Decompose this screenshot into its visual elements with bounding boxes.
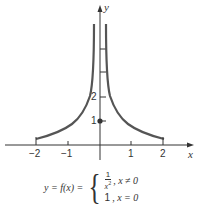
y-tick-label: 2 <box>91 92 97 102</box>
y-axis-arrow-icon <box>98 5 103 12</box>
y-axis-label: y <box>104 2 109 13</box>
case-zero: 1 , x = 0 <box>105 192 139 203</box>
left-brace: { <box>89 169 101 205</box>
y-ticks <box>100 49 106 121</box>
y-tick-label: 1 <box>91 116 97 126</box>
fraction-denominator: x2 <box>105 180 112 191</box>
x-tick-label: −1 <box>61 149 72 159</box>
fraction: 1 x2 <box>105 171 112 191</box>
case-nonzero: 1 x2 , x ≠ 0 <box>105 171 139 191</box>
x-tick-label: 2 <box>160 149 166 159</box>
case1-condition: , x ≠ 0 <box>113 175 138 186</box>
x-axis-arrow-icon <box>187 143 194 148</box>
x-tick-label: 1 <box>128 149 134 159</box>
fraction-numerator: 1 <box>105 171 111 180</box>
curve-left <box>36 24 94 139</box>
cases: 1 x2 , x ≠ 0 1 , x = 0 <box>105 171 139 204</box>
case2-value: 1 <box>105 192 111 203</box>
case2-condition: , x = 0 <box>112 192 138 203</box>
x-tick-label: −2 <box>29 149 40 159</box>
curve-right <box>106 24 164 139</box>
function-definition: y = f(x) = { 1 x2 , x ≠ 0 1 , x = 0 <box>44 168 138 206</box>
formula-lhs: y = f(x) = <box>44 182 83 193</box>
point-0-1 <box>97 118 102 123</box>
den-exponent: 2 <box>108 180 111 186</box>
x-axis-label: x <box>188 149 193 160</box>
